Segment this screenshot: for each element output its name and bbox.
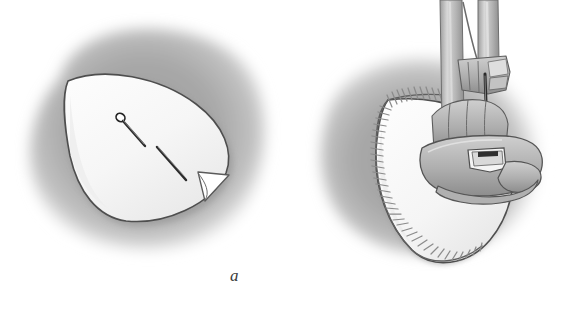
needle-bar-shaft bbox=[478, 0, 499, 62]
feed-dog-plate bbox=[472, 151, 503, 166]
panel-a: a Leaf-shaped tissue patch resting on sh… bbox=[0, 0, 292, 323]
figure-container: a Leaf-shaped tissue patch resting on sh… bbox=[0, 0, 584, 323]
panel-label-a: a bbox=[230, 266, 239, 286]
panel-b: b Same patch being machine-stitched alon… bbox=[292, 0, 584, 323]
